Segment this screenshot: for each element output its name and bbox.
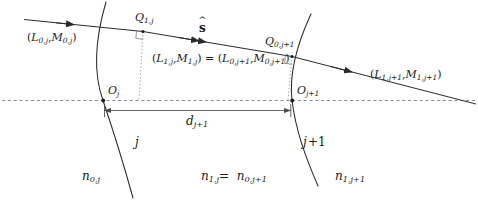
refractive-index-left: n0,j — [82, 170, 100, 183]
separation-arrow-left — [104, 108, 111, 113]
normal-line-surface-j — [139, 32, 143, 101]
middle-ray-arrowhead-1 — [178, 37, 199, 41]
vertex-dot-oj1 — [290, 99, 294, 103]
surface-j-plus-1 — [291, 14, 318, 186]
hat-accent: ^ — [198, 15, 206, 25]
vertex-dot-oj — [101, 99, 105, 103]
middle-ray-label: (L1,j,M1,j) = (L0,j+1,M0,j+1) — [152, 53, 289, 66]
intersection-dot-q0j1 — [291, 55, 294, 58]
intersection-dot-q1j — [142, 30, 145, 33]
refractive-index-middle: n1,j= n0,j+1 — [201, 170, 267, 183]
surface-index-label-j: j — [135, 136, 139, 148]
unit-vector-s-hat-label: ^s — [199, 22, 206, 34]
incoming-ray-segment — [24, 20, 143, 32]
point-label-q1j: Q1,j — [135, 12, 154, 25]
outgoing-ray-label: (L1,j+1,M1,j+1) — [370, 69, 442, 82]
ray-trace-figure: (L0,j,M0,j) Q1,j ^s (L1,j,M1,j) = (L0,j+… — [0, 0, 478, 201]
incoming-ray-label: (L0,j,M0,j) — [27, 32, 77, 45]
vertex-label-oj: Oj — [108, 85, 119, 98]
incoming-ray-arrowhead — [56, 23, 74, 25]
outgoing-ray-arrowhead — [330, 66, 352, 72]
point-label-q0j1: Q0,j+1 — [265, 36, 295, 49]
separation-arrow-right — [284, 108, 291, 113]
separation-label: dj+1 — [186, 115, 208, 128]
refractive-index-right: n1,j+1 — [335, 170, 365, 183]
vertex-label-oj1: Oj+1 — [297, 85, 319, 98]
surface-index-label-j-plus-1: j +1 — [303, 136, 326, 148]
